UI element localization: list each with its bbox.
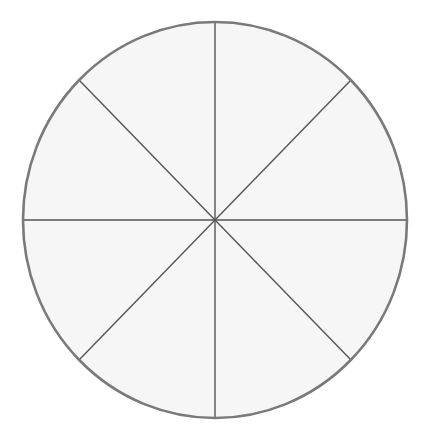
divided-circle-diagram (0, 0, 424, 436)
divider-lines (23, 22, 407, 418)
